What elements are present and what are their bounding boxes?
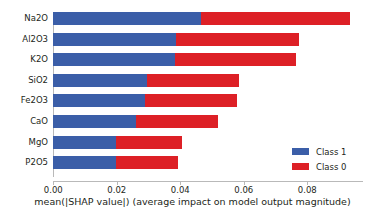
bar-segment-class-1 [53, 53, 174, 66]
y-axis-label-al2o3: Al2O3 [22, 33, 48, 46]
bar-segment-class-1 [53, 33, 176, 46]
bar-segment-class-0 [116, 156, 178, 169]
shap-summary-bar-chart: Na2OAl2O3K2OSiO2Fe2O3CaOMgOP2O5 0.000.02… [0, 0, 385, 215]
legend-swatch-icon [292, 163, 309, 170]
bar-segment-class-1 [53, 115, 136, 128]
bar-segment-class-1 [53, 74, 147, 87]
x-axis-title: mean(|SHAP value|) (average impact on mo… [0, 196, 385, 207]
bar-segment-class-0 [116, 136, 182, 149]
legend-label: Class 1 [316, 147, 346, 157]
bar-row [53, 74, 239, 87]
y-axis-label-p2o5: P2O5 [25, 156, 48, 169]
x-axis-tick-label: 0.04 [171, 185, 190, 195]
x-axis-spine [53, 181, 363, 182]
bar-row [53, 12, 350, 25]
bar-segment-class-0 [136, 115, 218, 128]
legend-swatch-icon [292, 148, 309, 155]
x-axis-tick-label: 0.02 [107, 185, 126, 195]
bar-row [53, 33, 299, 46]
legend-entry[interactable]: Class 1 [292, 145, 346, 158]
y-axis-label-mgo: MgO [29, 136, 48, 149]
bar-row [53, 115, 217, 128]
bar-segment-class-1 [53, 94, 144, 107]
bar-segment-class-0 [147, 74, 239, 87]
x-axis-tick-label: 0.08 [298, 185, 317, 195]
legend-entry[interactable]: Class 0 [292, 160, 346, 173]
chart-legend: Class 1Class 0 [292, 145, 346, 175]
bar-row [53, 156, 178, 169]
y-axis-label-fe2o3: Fe2O3 [21, 94, 48, 107]
y-axis-label-sio2: SiO2 [28, 74, 48, 87]
bar-segment-class-0 [176, 33, 300, 46]
y-axis-label-na2o: Na2O [24, 12, 48, 25]
bar-segment-class-1 [53, 156, 116, 169]
y-axis-label-k2o: K2O [30, 53, 48, 66]
y-axis-label-cao: CaO [30, 115, 48, 128]
bar-segment-class-0 [145, 94, 238, 107]
x-axis-tick-label: 0.06 [234, 185, 253, 195]
bar-segment-class-0 [175, 53, 297, 66]
bar-row [53, 53, 296, 66]
legend-label: Class 0 [316, 162, 346, 172]
bar-segment-class-0 [201, 12, 350, 25]
bar-segment-class-1 [53, 136, 116, 149]
bar-segment-class-1 [53, 12, 201, 25]
bar-row [53, 136, 182, 149]
x-axis-tick-label: 0.00 [44, 185, 63, 195]
bar-row [53, 94, 237, 107]
